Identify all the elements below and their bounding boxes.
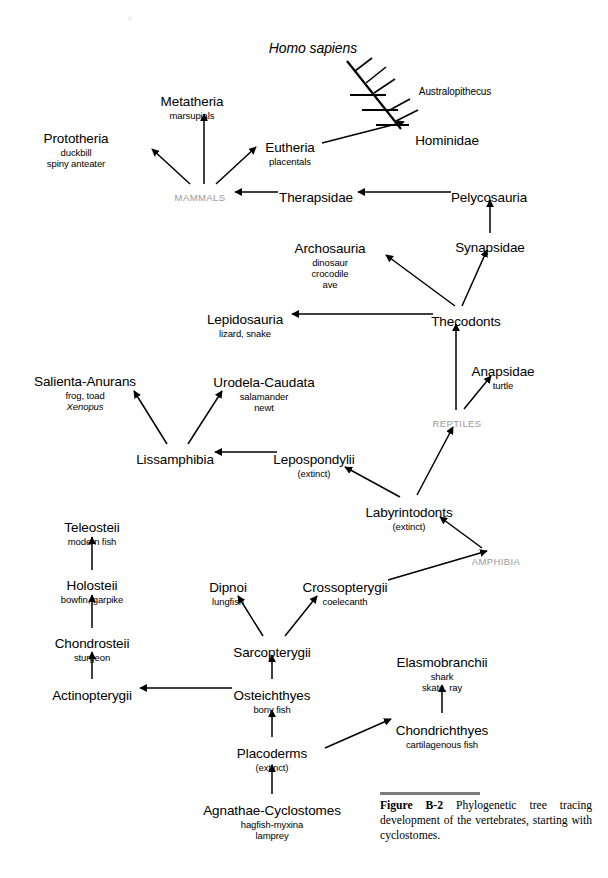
taxon-label: Agnathae-Cyclostomes: [203, 803, 341, 819]
taxon-common-name: (extinct): [365, 521, 452, 532]
taxon-node-anapsidae: Anapsidaeturtle: [472, 364, 535, 391]
taxon-label: Labyrintodonts: [365, 505, 452, 521]
taxon-common-name: shark: [397, 671, 488, 682]
edge-thecodonts-to-archosauria: [386, 255, 455, 306]
taxon-common-name: frog, toad: [34, 390, 136, 401]
taxon-common-name: turtle: [472, 380, 535, 391]
taxon-label: Sarcopterygii: [233, 645, 311, 661]
taxon-common-name: spiny anteater: [44, 158, 109, 169]
taxon-common-name: ave: [295, 279, 366, 290]
taxon-common-name: sturgeon: [55, 652, 130, 663]
taxon-label: Australopithecus: [419, 86, 491, 98]
taxon-common-name: skate, ray: [397, 682, 488, 693]
cladogram-branch-6: [396, 110, 418, 121]
taxon-common-name: placentals: [265, 156, 314, 167]
cladogram-trunk: [347, 61, 401, 129]
taxon-label: Synapsidae: [455, 240, 525, 256]
taxon-label: Holosteii: [61, 578, 123, 594]
taxon-node-mammals: MAMMALS: [175, 192, 226, 203]
cladogram-branch-7: [355, 58, 372, 71]
taxon-label: Lepospondylii: [273, 452, 354, 468]
figure-page: Homo sapiensAustralopithecusHominidaeMet…: [0, 0, 608, 878]
taxon-label: Eutheria: [265, 140, 314, 156]
taxon-node-hominidae: Hominidae: [415, 133, 479, 149]
page-speck: [128, 16, 132, 21]
taxon-label: Osteichthyes: [234, 688, 311, 704]
taxon-node-osteichthyes: Osteichthyesbony fish: [234, 688, 311, 715]
taxon-node-therapsidae: Therapsidae: [279, 190, 353, 206]
taxon-label: Homo sapiens: [269, 40, 357, 57]
taxon-common-name: salamander: [213, 391, 314, 402]
taxon-common-name: bowfin, garpike: [61, 594, 123, 605]
cladogram-branch-3: [366, 67, 386, 83]
taxon-node-dipnoi: Dipnoilungfish: [209, 580, 247, 607]
taxon-label: Archosauria: [295, 241, 366, 257]
taxon-node-australopithecus: Australopithecus: [419, 86, 491, 98]
taxon-common-name: coelecanth: [303, 596, 388, 607]
taxon-label: Salienta-Anurans: [34, 374, 136, 390]
edge-thecodonts-to-synapsidae: [462, 250, 487, 306]
taxon-label: Lissamphibia: [136, 452, 214, 468]
figure-caption: Figure B-2 Phylogenetic tree tracing dev…: [380, 792, 592, 843]
taxon-label: Prototheria: [44, 131, 109, 147]
taxon-common-name-2: Xenopus: [34, 401, 136, 412]
taxon-node-teleosteii: Teleosteiimodern fish: [64, 520, 119, 547]
taxon-label: Chondrichthyes: [396, 723, 488, 739]
taxon-label: Actinopterygii: [52, 688, 132, 704]
taxon-node-amphibia: AMPHIBIA: [472, 556, 521, 567]
taxon-common-name: lungfish: [209, 596, 247, 607]
taxon-label: Placoderms: [237, 746, 307, 762]
taxon-common-name: crocodile: [295, 268, 366, 279]
taxon-label: Dipnoi: [209, 580, 247, 596]
taxon-common-name: cartilagenous fish: [396, 739, 488, 750]
taxon-common-name: hagfish-myxina: [203, 819, 341, 830]
taxon-label: Crossopterygii: [303, 580, 388, 596]
edge-mammals-to-prototheria: [152, 149, 190, 184]
taxon-common-name: newt: [213, 402, 314, 413]
taxon-node-homo_sapiens: Homo sapiens: [269, 40, 357, 57]
taxon-label: Urodela-Caudata: [213, 375, 314, 391]
taxon-node-lissamphibia: Lissamphibia: [136, 452, 214, 468]
taxon-node-synapsidae: Synapsidae: [455, 240, 525, 256]
taxon-node-metatheria: Metatheriamarsupials: [161, 94, 224, 121]
taxon-node-reptiles: REPTILES: [432, 418, 481, 429]
taxon-label: MAMMALS: [175, 192, 226, 203]
taxon-node-archosauria: Archosauriadinosaurcrocodileave: [295, 241, 366, 291]
edge-labyrintodonts-to-reptiles: [417, 427, 453, 495]
taxon-label: Lepidosauria: [207, 312, 283, 328]
taxon-node-chondrosteii: Chondrosteiisturgeon: [55, 636, 130, 663]
taxon-node-urodela: Urodela-Caudatasalamandernewt: [213, 375, 314, 413]
edge-eutheria-to-hominidae: [322, 122, 404, 143]
taxon-node-lepidosauria: Lepidosaurializard, snake: [207, 312, 283, 339]
taxon-label: Pelycosauria: [451, 190, 527, 206]
taxon-node-placoderms: Placoderms(extinct): [237, 746, 307, 773]
taxon-node-pelycosauria: Pelycosauria: [451, 190, 527, 206]
caption-text: Figure B-2 Phylogenetic tree tracing dev…: [380, 798, 592, 844]
taxon-label: AMPHIBIA: [472, 556, 521, 567]
taxon-node-agnathae: Agnathae-Cyclostomeshagfish-myxinalampre…: [203, 803, 341, 841]
caption-rule: [380, 792, 480, 795]
taxon-label: Therapsidae: [279, 190, 353, 206]
taxon-node-lepospondylii: Lepospondylii(extinct): [273, 452, 354, 479]
taxon-label: REPTILES: [432, 418, 481, 429]
edge-mammals-to-eutheria: [216, 147, 256, 184]
edge-placoderms-to-chondrichthyes: [325, 719, 391, 748]
taxon-node-actinopterygii: Actinopterygii: [52, 688, 132, 704]
taxon-common-name: (extinct): [237, 762, 307, 773]
taxon-label: Hominidae: [415, 133, 479, 149]
cladogram-branch-5: [388, 99, 410, 111]
taxon-common-name: (extinct): [273, 468, 354, 479]
taxon-node-sarcopterygii: Sarcopterygii: [233, 645, 311, 661]
taxon-common-name: bony fish: [234, 704, 311, 715]
taxon-node-chondrichthyes: Chondrichthyescartilagenous fish: [396, 723, 488, 750]
caption-figure-number: B-2: [426, 799, 443, 812]
taxon-node-holosteii: Holosteiibowfin, garpike: [61, 578, 123, 605]
taxon-label: Thecodonts: [431, 314, 501, 330]
taxon-common-name: duckbill: [44, 147, 109, 158]
taxon-label: Teleosteii: [64, 520, 119, 536]
taxon-node-crossopterygii: Crossopterygiicoelecanth: [303, 580, 388, 607]
taxon-label: Elasmobranchii: [397, 655, 488, 671]
taxon-node-salienta: Salienta-Anuransfrog, toadXenopus: [34, 374, 136, 412]
taxon-label: Chondrosteii: [55, 636, 130, 652]
caption-figure-label: Figure: [380, 799, 413, 812]
